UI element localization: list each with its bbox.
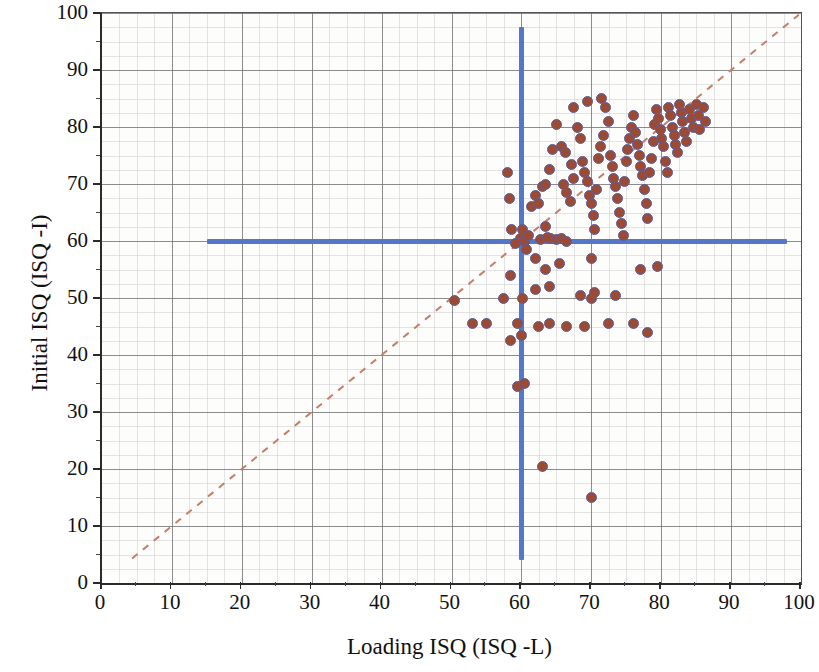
y-axis-tick	[93, 582, 100, 584]
y-axis-tick-minor	[96, 155, 100, 156]
data-point	[577, 156, 588, 167]
data-point	[586, 198, 597, 209]
x-axis-tick	[729, 582, 731, 589]
plot-area	[100, 12, 802, 585]
x-axis-title: Loading ISQ (ISQ -L)	[100, 634, 799, 660]
data-point	[614, 207, 625, 218]
data-point	[554, 258, 565, 269]
y-axis-tick	[93, 525, 100, 527]
y-axis-tick-minor	[96, 497, 100, 498]
x-axis-tick-label: 60	[489, 590, 549, 615]
y-axis-tick-minor	[96, 212, 100, 213]
data-point	[612, 193, 623, 204]
data-point	[551, 119, 562, 130]
y-axis-tick-label: 20	[28, 457, 88, 479]
x-axis-tick	[589, 582, 591, 589]
data-point	[517, 293, 528, 304]
y-axis-tick	[93, 12, 100, 14]
y-axis-tick-minor	[96, 269, 100, 270]
y-axis-tick-label: 80	[28, 115, 88, 137]
data-point	[505, 270, 516, 281]
data-point	[560, 147, 571, 158]
y-axis-tick	[93, 126, 100, 128]
x-axis-tick-minor	[345, 582, 346, 586]
x-axis-tick-label: 40	[350, 590, 410, 615]
x-axis-tick	[450, 582, 452, 589]
x-axis-tick	[380, 582, 382, 589]
data-point	[639, 184, 650, 195]
gridline-horizontal	[102, 184, 801, 185]
data-point	[544, 164, 555, 175]
data-point	[635, 264, 646, 275]
data-point	[630, 127, 641, 138]
data-point	[519, 378, 530, 389]
data-point	[579, 321, 590, 332]
data-point	[561, 236, 572, 247]
x-axis-tick-minor	[484, 582, 485, 586]
y-axis-tick-minor	[96, 41, 100, 42]
y-axis-tick	[93, 183, 100, 185]
data-point	[566, 159, 577, 170]
y-axis-tick-minor	[96, 554, 100, 555]
data-point	[660, 156, 671, 167]
data-point	[589, 287, 600, 298]
gridline-horizontal	[102, 70, 801, 71]
x-axis-tick-label: 20	[210, 590, 270, 615]
gridline-horizontal	[102, 13, 801, 14]
x-axis-tick-minor	[135, 582, 136, 586]
identity-line-stroke	[132, 15, 799, 559]
data-point	[498, 293, 509, 304]
data-point	[575, 290, 586, 301]
y-axis-tick-label: 0	[28, 571, 88, 593]
data-point	[632, 139, 643, 150]
data-point	[544, 281, 555, 292]
data-point	[618, 230, 629, 241]
data-point	[582, 176, 593, 187]
data-point	[589, 224, 600, 235]
data-point	[619, 176, 630, 187]
data-point	[698, 102, 709, 113]
data-point	[481, 318, 492, 329]
data-point	[610, 290, 621, 301]
data-point	[572, 122, 583, 133]
data-point	[568, 173, 579, 184]
y-axis-tick-minor	[96, 98, 100, 99]
x-axis-tick-label: 70	[559, 590, 619, 615]
y-axis-tick-label: 30	[28, 400, 88, 422]
data-point	[516, 330, 527, 341]
x-axis-tick	[310, 582, 312, 589]
data-point	[628, 318, 639, 329]
data-point	[591, 184, 602, 195]
data-point	[530, 253, 541, 264]
y-axis-tick-minor	[96, 440, 100, 441]
y-axis-tick-label: 100	[28, 1, 88, 23]
x-axis-tick-minor	[415, 582, 416, 586]
x-axis-tick-label: 30	[280, 590, 340, 615]
data-point	[641, 198, 652, 209]
x-axis-tick-minor	[624, 582, 625, 586]
data-point	[603, 116, 614, 127]
data-point	[595, 141, 606, 152]
data-point	[672, 147, 683, 158]
data-point	[561, 321, 572, 332]
data-point	[653, 113, 664, 124]
data-point	[530, 284, 541, 295]
data-point	[681, 136, 692, 147]
data-point	[644, 167, 655, 178]
y-axis-tick-minor	[96, 326, 100, 327]
y-axis-tick-label: 50	[28, 286, 88, 308]
x-axis-tick	[240, 582, 242, 589]
data-point	[521, 244, 532, 255]
y-axis-tick	[93, 468, 100, 470]
y-axis-tick	[93, 297, 100, 299]
data-point	[593, 153, 604, 164]
data-point	[449, 295, 460, 306]
x-axis-tick-label: 80	[629, 590, 689, 615]
x-axis-tick-label: 90	[699, 590, 759, 615]
data-point	[544, 318, 555, 329]
y-axis-tick-label: 40	[28, 343, 88, 365]
x-axis-tick-minor	[764, 582, 765, 586]
data-point	[533, 321, 544, 332]
data-point	[588, 210, 599, 221]
x-axis-tick-minor	[205, 582, 206, 586]
